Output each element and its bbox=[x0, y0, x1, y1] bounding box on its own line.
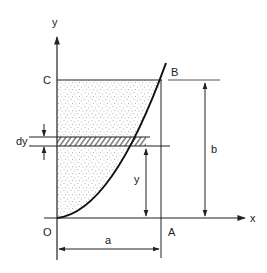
origin-label: O bbox=[43, 226, 52, 238]
x-axis-label: x bbox=[250, 212, 256, 224]
y-axis-label: y bbox=[52, 16, 58, 28]
point-b-label: B bbox=[171, 66, 178, 78]
dimension-y-label: y bbox=[134, 173, 140, 185]
point-c-label: C bbox=[43, 74, 51, 86]
point-a-label: A bbox=[168, 226, 176, 238]
dimension-a-label: a bbox=[105, 234, 112, 246]
dy-label: dy bbox=[16, 135, 28, 147]
dimension-b-label: b bbox=[211, 143, 217, 155]
parabola-area-diagram: y x C B O A a b y dy bbox=[0, 0, 267, 273]
